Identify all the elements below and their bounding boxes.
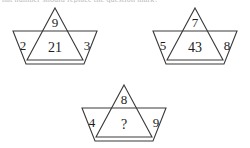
figure-2-center-number: 43: [188, 41, 202, 55]
figure-1-center-number: 21: [48, 41, 62, 55]
puzzle-figure-3: 8 4 ? 9: [77, 81, 173, 145]
puzzle-figure-1: 9 2 21 3: [8, 4, 104, 68]
figure-1-right-number: 3: [84, 39, 91, 52]
figure-1-top-number: 9: [52, 16, 59, 29]
figure-2-right-number: 8: [224, 39, 231, 52]
puzzle-image: hat number should replace the question m…: [0, 0, 250, 148]
clipped-question-text: hat number should replace the question m…: [2, 0, 242, 3]
figure-2-top-number: 7: [192, 16, 199, 29]
figure-3-right-number: 9: [153, 116, 160, 129]
figure-3-top-number: 8: [121, 93, 128, 106]
figure-2-left-number: 5: [160, 39, 167, 52]
figure-1-left-number: 2: [20, 39, 27, 52]
figure-3-left-number: 4: [89, 116, 96, 129]
figure-3-center-number: ?: [121, 118, 127, 132]
puzzle-figure-2: 7 5 43 8: [148, 4, 244, 68]
